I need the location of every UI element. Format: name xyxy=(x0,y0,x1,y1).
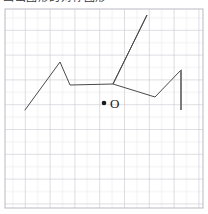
origin-label: O xyxy=(110,96,119,111)
caption-text: 画出图形的对称图形 xyxy=(3,0,107,3)
grid-background xyxy=(5,9,203,208)
geometry-figure-svg: O xyxy=(0,5,208,214)
figure-page: 画出图形的对称图形 O xyxy=(0,0,208,214)
origin-dot xyxy=(102,101,107,106)
grid-figure-container: O xyxy=(0,5,208,214)
